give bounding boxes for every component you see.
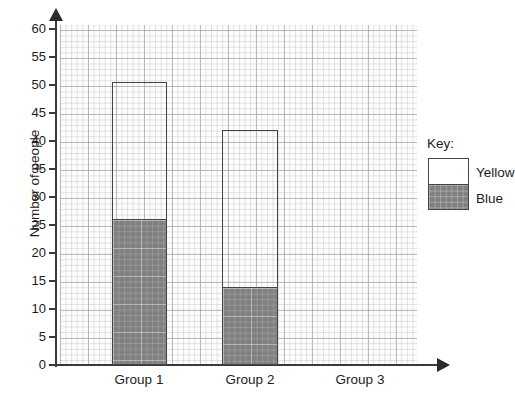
y-tick-50 — [49, 84, 57, 86]
y-tick-10 — [49, 308, 57, 310]
y-tick-60 — [49, 28, 57, 30]
y-tick-20 — [49, 252, 57, 254]
legend-label-blue: Blue — [476, 191, 503, 206]
y-tick-label-10: 10 — [32, 302, 46, 315]
y-tick-15 — [49, 280, 57, 282]
x-axis-arrow-icon — [437, 358, 450, 372]
bar-group-1-blue — [112, 219, 167, 365]
legend-label-yellow: Yellow — [476, 165, 515, 180]
y-tick-5 — [49, 336, 57, 338]
x-tick-label-group-3: Group 3 — [310, 372, 410, 387]
x-tick-label-group-1: Group 1 — [89, 372, 189, 387]
y-tick-label-55: 55 — [32, 50, 46, 63]
y-tick-label-15: 15 — [32, 274, 46, 287]
y-tick-label-50: 50 — [32, 78, 46, 91]
y-tick-40 — [49, 140, 57, 142]
y-tick-45 — [49, 112, 57, 114]
y-axis-arrow-icon — [49, 8, 63, 21]
x-tick-label-group-2: Group 2 — [200, 372, 300, 387]
y-tick-label-5: 5 — [39, 330, 46, 343]
bar-group-2-blue — [222, 287, 278, 365]
y-axis-line — [55, 18, 57, 367]
y-axis-title: Number of people — [27, 104, 42, 264]
legend-swatch-blue — [429, 184, 468, 209]
y-tick-30 — [49, 196, 57, 198]
y-tick-35 — [49, 168, 57, 170]
legend-swatch — [428, 158, 469, 210]
y-tick-label-0: 0 — [39, 358, 46, 371]
y-tick-25 — [49, 224, 57, 226]
y-tick-55 — [49, 56, 57, 58]
legend-swatch-yellow — [429, 159, 468, 184]
y-tick-label-60: 60 — [32, 22, 46, 35]
y-tick-0 — [49, 364, 57, 366]
legend-title: Key: — [427, 136, 454, 151]
